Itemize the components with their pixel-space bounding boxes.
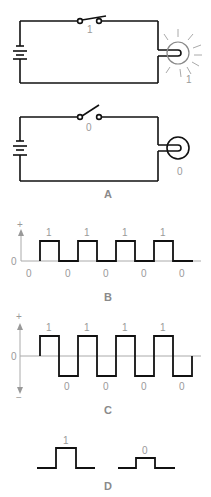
caption-a: A [104,188,112,200]
axis-zero-label: 0 [11,351,17,362]
bit-label: 1 [122,227,128,238]
switch-open-icon [78,105,102,119]
bit-label: 0 [141,268,147,279]
bit-label: 0 [64,381,70,392]
bit-label: 0 [65,268,71,279]
bit-label: 0 [179,268,185,279]
axis-plus-label: + [16,311,22,322]
switch-off-label: 0 [86,122,92,133]
binary-signal-diagram: 1 1 0 0 A + 0 1 [0,0,211,497]
bulb-unlit-icon [158,137,189,159]
axis-zero-label: 0 [11,256,17,267]
arrow-up-icon [17,323,23,330]
pulse-label: 0 [142,445,148,456]
bulb-lit-icon [158,29,202,77]
bit-label: 1 [84,227,90,238]
bulb-on-label: 1 [186,74,192,85]
switch-on-label: 1 [87,24,93,35]
axis-minus-label: − [16,392,22,403]
pulse-label: 1 [63,435,69,446]
battery-icon [13,141,27,155]
pulse-low [118,458,175,468]
bit-label: 1 [160,227,166,238]
switch-closed-icon [78,16,106,23]
arrow-up-icon [18,229,24,236]
bit-label: 0 [103,268,109,279]
caption-b: B [104,291,112,303]
bit-label: 0 [103,381,109,392]
bipolar-waveform [17,323,201,394]
pulse-high [37,448,95,468]
circuit-on [13,16,202,83]
bit-label: 0 [26,268,32,279]
bit-label: 1 [160,322,166,333]
bit-label: 1 [84,322,90,333]
axis-plus-label: + [17,219,23,230]
pulse-amplitude [37,448,175,468]
bit-label: 1 [122,322,128,333]
bit-label: 1 [46,227,52,238]
bulb-off-label: 0 [177,166,183,177]
battery-icon [13,46,27,59]
caption-c: C [104,404,112,416]
circuit-off [13,105,189,181]
bit-label: 1 [46,322,52,333]
bit-label: 0 [141,381,147,392]
bit-label: 0 [179,381,185,392]
caption-d: D [104,480,112,492]
